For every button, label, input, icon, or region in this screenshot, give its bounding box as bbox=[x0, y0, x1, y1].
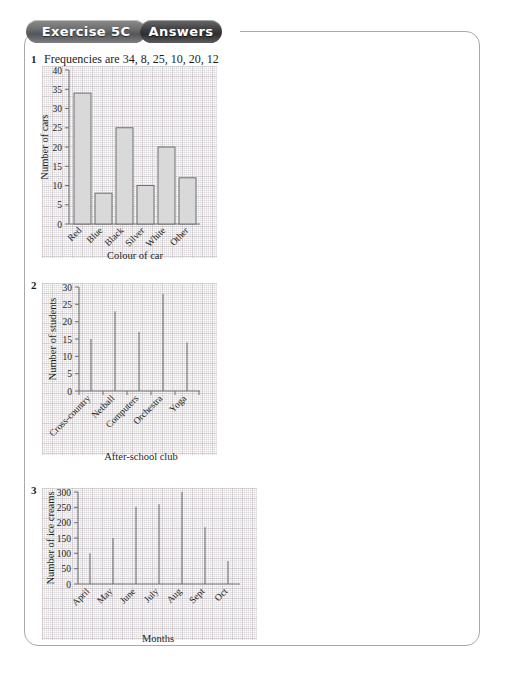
chart-3-category-labels: April May June July Aug Sept Oct bbox=[70, 586, 230, 608]
chart-1-category-labels: Red Blue Black Silver White Other bbox=[66, 225, 191, 249]
svg-text:Sept: Sept bbox=[187, 586, 206, 605]
svg-text:150: 150 bbox=[57, 534, 72, 544]
chart-3-value-lines bbox=[90, 492, 228, 584]
svg-text:40: 40 bbox=[53, 66, 63, 76]
chart-1-bars bbox=[74, 93, 196, 224]
chart-3-y-axis-title: Number of ice creams bbox=[45, 492, 56, 585]
svg-text:10: 10 bbox=[63, 352, 73, 362]
svg-text:Aug: Aug bbox=[165, 586, 184, 605]
exercise-badge[interactable]: Exercise 5C bbox=[26, 20, 146, 43]
svg-text:June: June bbox=[118, 586, 137, 605]
svg-text:5: 5 bbox=[67, 369, 72, 379]
svg-text:15: 15 bbox=[63, 335, 73, 345]
svg-text:Cross-country: Cross-country bbox=[47, 393, 92, 438]
svg-text:10: 10 bbox=[53, 181, 63, 191]
chart-1-x-axis-title: Colour of car bbox=[107, 250, 163, 261]
svg-text:200: 200 bbox=[57, 518, 72, 528]
svg-text:20: 20 bbox=[53, 143, 63, 153]
svg-text:Silver: Silver bbox=[123, 225, 147, 249]
chart-1-bar bbox=[137, 186, 154, 225]
svg-text:Oct: Oct bbox=[213, 586, 230, 603]
svg-text:0: 0 bbox=[66, 580, 71, 590]
svg-text:July: July bbox=[142, 586, 160, 604]
svg-text:Black: Black bbox=[103, 225, 126, 248]
svg-text:Other: Other bbox=[168, 225, 191, 248]
chart-2-category-labels: Cross-country Netball Computers Orchestr… bbox=[47, 393, 189, 439]
svg-text:Blue: Blue bbox=[85, 225, 105, 245]
svg-text:5: 5 bbox=[57, 200, 62, 210]
svg-text:Red: Red bbox=[66, 225, 84, 243]
chart-1-y-axis-title: Number of cars bbox=[39, 114, 50, 179]
chart-1-bar bbox=[74, 93, 91, 224]
svg-text:50: 50 bbox=[62, 564, 72, 574]
chart-3-y-ticks: 300 250 200 150 100 50 0 bbox=[57, 488, 78, 590]
svg-text:April: April bbox=[70, 586, 92, 608]
chart-1-bar bbox=[158, 147, 175, 224]
svg-text:Yoga: Yoga bbox=[167, 393, 189, 415]
svg-text:30: 30 bbox=[63, 283, 73, 293]
svg-text:100: 100 bbox=[57, 549, 72, 559]
svg-text:250: 250 bbox=[57, 503, 72, 513]
svg-text:0: 0 bbox=[67, 387, 72, 397]
svg-text:May: May bbox=[95, 586, 115, 606]
svg-text:30: 30 bbox=[53, 104, 63, 114]
chart-1-bar bbox=[116, 128, 133, 224]
svg-text:25: 25 bbox=[63, 300, 73, 310]
chart-3-x-axis-title: Months bbox=[142, 633, 174, 644]
chart-1-bar bbox=[95, 193, 112, 224]
svg-text:25: 25 bbox=[53, 123, 63, 133]
svg-text:35: 35 bbox=[53, 85, 63, 95]
svg-text:300: 300 bbox=[57, 488, 72, 498]
svg-text:0: 0 bbox=[57, 220, 62, 230]
chart-1-bar bbox=[179, 178, 196, 224]
chart-2-y-ticks: 30 25 20 15 10 5 0 bbox=[63, 283, 80, 397]
chart-1-y-ticks: 40 35 30 25 20 15 10 5 0 bbox=[53, 66, 70, 230]
svg-text:White: White bbox=[144, 225, 167, 248]
svg-text:15: 15 bbox=[53, 162, 63, 172]
chart-2-x-axis-title: After-school club bbox=[104, 451, 178, 462]
chart-3-vertical-line-chart: 300 250 200 150 100 50 0 April May June … bbox=[28, 484, 268, 649]
chart-2-value-lines bbox=[91, 294, 187, 391]
exercise-header: Exercise 5C Answers bbox=[26, 19, 222, 43]
answers-badge[interactable]: Answers bbox=[140, 20, 222, 43]
svg-text:20: 20 bbox=[63, 317, 73, 327]
chart-1-bar-chart: 40 35 30 25 20 15 10 5 0 Red Blue Black … bbox=[28, 62, 228, 262]
chart-2-y-axis-title: Number of students bbox=[47, 298, 58, 381]
chart-2-vertical-line-chart: 30 25 20 15 10 5 0 Cross-country Netball… bbox=[28, 279, 228, 464]
